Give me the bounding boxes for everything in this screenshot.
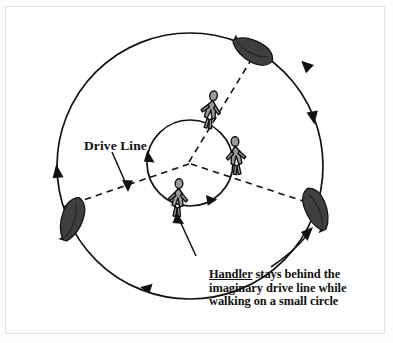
leader-lines-group xyxy=(112,152,313,267)
figure-root: Drive Line Handler stays behind the imag… xyxy=(0,0,393,343)
stock-right xyxy=(298,184,335,235)
caption-block: Handler stays behind the imaginary drive… xyxy=(209,268,346,309)
handler-leader xyxy=(173,212,197,256)
outer-circle-arrowheads xyxy=(51,59,318,294)
caption-handler-term: Handler xyxy=(209,267,252,281)
caption-line-1: Handler stays behind the xyxy=(209,268,346,282)
caption-line-3: walking on a small circle xyxy=(209,295,346,309)
stock-leader xyxy=(271,227,313,267)
stock-left xyxy=(55,194,89,244)
drive-line-label: Drive Line xyxy=(84,138,147,154)
handler-bottom xyxy=(167,178,189,217)
caption-line-1-rest: stays behind the xyxy=(252,267,340,281)
stock-top-right xyxy=(228,31,278,71)
caption-line-2: imaginary drive line while xyxy=(209,282,346,296)
drive-lines-group xyxy=(60,55,318,208)
drive-line-upper-right xyxy=(189,55,254,162)
